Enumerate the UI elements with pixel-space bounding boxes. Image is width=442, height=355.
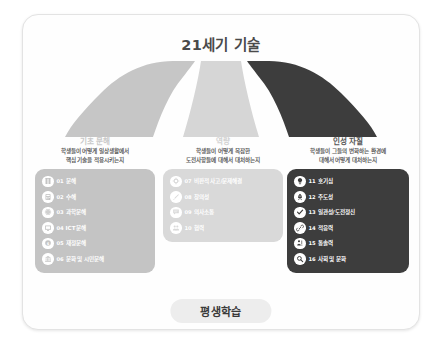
items-panel: 01 문해 02 수해 03 과학문해 — [35, 169, 155, 273]
item-number: 08 — [185, 194, 194, 200]
fan-left-shape — [65, 61, 195, 137]
link-icon — [294, 222, 306, 234]
item-label: 창의성 — [194, 193, 209, 201]
item-number: 09 — [185, 209, 194, 215]
item-number: 14 — [309, 225, 318, 231]
item-number: 01 — [57, 178, 66, 184]
item-number: 15 — [309, 240, 318, 246]
item-label: ICT문해 — [66, 224, 86, 232]
list-item[interactable]: 03 과학문해 — [39, 205, 151, 221]
item-label: 문해 — [66, 177, 76, 185]
column-character-qualities: 인성 자질 학생들이 그들의 변화하는 환경에 대해서 어떻게 대처하는지 11… — [287, 137, 409, 273]
list-item[interactable]: 16 사회 및 문화 — [291, 251, 405, 267]
list-item[interactable]: 06 문화 및 시민문해 — [39, 251, 151, 267]
item-label: 사회 및 문화 — [318, 255, 347, 263]
item-label: 협력 — [194, 224, 204, 232]
item-label: 재정문해 — [66, 239, 86, 247]
item-number: 13 — [309, 209, 318, 215]
fan-middle-shape — [183, 61, 259, 137]
item-number: 16 — [309, 256, 318, 262]
list-item[interactable]: 08 창의성 — [167, 189, 279, 205]
fan-right-shape — [247, 61, 377, 137]
items-panel: 07 비판적 사고/문제해결 08 창의성 09 의사소통 — [163, 169, 283, 242]
list-item[interactable]: 01 문해 — [39, 174, 151, 190]
monitor-icon — [42, 222, 54, 234]
column-subtitle-line1: 학생들이 어떻게 복잡한 — [163, 147, 283, 155]
column-subtitle-line1: 학생들이 그들의 변화하는 환경에 — [287, 147, 409, 155]
list-item[interactable]: 02 수해 — [39, 189, 151, 205]
column-subtitle-line2: 대해서 어떻게 대처하는지 — [287, 156, 409, 164]
item-label: 적응력 — [318, 224, 333, 232]
magnifier-icon — [294, 253, 306, 265]
column-heading: 기초 문해 — [35, 137, 155, 146]
calculator-icon — [42, 191, 54, 203]
item-label: 비판적 사고/문제해결 — [194, 177, 243, 185]
column-subtitle-line1: 학생들이 어떻게 일상생활에서 — [35, 147, 155, 155]
item-label: 수해 — [66, 193, 76, 201]
leader-icon — [294, 238, 306, 250]
item-number: 10 — [185, 225, 194, 231]
fan-shapes — [23, 59, 419, 139]
item-label: 일관성/도전정신 — [318, 208, 355, 216]
column-subtitle-line2: 핵심 기술을 적용시키는지 — [35, 156, 155, 164]
item-number: 06 — [57, 256, 66, 262]
building-icon — [42, 253, 54, 265]
item-label: 호기심 — [318, 177, 333, 185]
list-item[interactable]: 13 일관성/도전정신 — [291, 205, 405, 221]
column-subtitle: 학생들이 그들의 변화하는 환경에 대해서 어떻게 대처하는지 — [287, 147, 409, 163]
column-heading: 인성 자질 — [287, 137, 409, 146]
list-item[interactable]: 15 통솔력 — [291, 236, 405, 252]
item-number: 04 — [57, 225, 66, 231]
list-item[interactable]: 11 호기심 — [291, 174, 405, 190]
chat-icon — [170, 207, 182, 219]
list-item[interactable]: 14 적응력 — [291, 220, 405, 236]
item-label: 주도성 — [318, 193, 333, 201]
item-label: 과학문해 — [66, 208, 86, 216]
item-number: 03 — [57, 209, 66, 215]
lifelong-learning-banner: 평생학습 — [170, 299, 271, 323]
item-label: 문화 및 시민문해 — [66, 255, 105, 263]
item-number: 11 — [309, 178, 318, 184]
page-title: 21세기 기술 — [23, 33, 419, 54]
item-number: 12 — [309, 194, 318, 200]
list-item[interactable]: 04 ICT문해 — [39, 220, 151, 236]
item-number: 05 — [57, 240, 66, 246]
book-icon — [42, 176, 54, 188]
bulb-icon — [294, 176, 306, 188]
svg-text:$: $ — [46, 242, 49, 246]
item-number: 07 — [185, 178, 194, 184]
diagram-card: 21세기 기술 기초 문해 학생들이 어떻게 일상생활에서 핵심 기술을 적용시… — [22, 14, 420, 330]
column-foundational-literacies: 기초 문해 학생들이 어떻게 일상생활에서 핵심 기술을 적용시키는지 01 문… — [35, 137, 155, 273]
list-item[interactable]: $ 05 재정문해 — [39, 236, 151, 252]
gear-icon — [170, 176, 182, 188]
column-subtitle-line2: 도전사항들에 대해서 대처하는지 — [163, 156, 283, 164]
atom-icon — [42, 207, 54, 219]
item-number: 02 — [57, 194, 66, 200]
item-label: 통솔력 — [318, 239, 333, 247]
coin-icon: $ — [42, 238, 54, 250]
rocket-icon — [294, 191, 306, 203]
brush-icon — [170, 191, 182, 203]
list-item[interactable]: 10 협력 — [167, 220, 279, 236]
column-subtitle: 학생들이 어떻게 복잡한 도전사항들에 대해서 대처하는지 — [163, 147, 283, 163]
list-item[interactable]: 12 주도성 — [291, 189, 405, 205]
list-item[interactable]: 07 비판적 사고/문제해결 — [167, 174, 279, 190]
items-panel: 11 호기심 12 주도성 13 일관성/도전정신 — [287, 169, 409, 273]
list-item[interactable]: 09 의사소통 — [167, 205, 279, 221]
people-icon — [170, 222, 182, 234]
column-subtitle: 학생들이 어떻게 일상생활에서 핵심 기술을 적용시키는지 — [35, 147, 155, 163]
item-label: 의사소통 — [194, 208, 214, 216]
column-competencies: 역량 학생들이 어떻게 복잡한 도전사항들에 대해서 대처하는지 07 비판적 … — [163, 137, 283, 242]
check-icon — [294, 207, 306, 219]
column-heading: 역량 — [163, 137, 283, 146]
